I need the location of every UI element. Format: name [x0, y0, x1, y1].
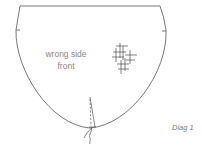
right-upper-side: [160, 6, 166, 30]
label-wrong-side: wrong side: [44, 49, 86, 59]
left-upper-side: [16, 6, 20, 30]
lower-curve: [16, 30, 166, 128]
diagram-caption: Diag 1: [172, 123, 194, 132]
pattern-piece-outline: [16, 6, 166, 128]
center-seam: [89, 97, 96, 127]
thread-tails-icon: [84, 127, 92, 144]
label-front: front: [57, 61, 75, 71]
cross-stitch-motif-icon: [112, 43, 137, 74]
diagram-canvas: wrong side front Diag 1: [0, 0, 202, 146]
